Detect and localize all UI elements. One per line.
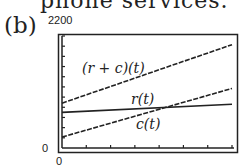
label-r: r(t) bbox=[131, 91, 154, 107]
label-c: c(t) bbox=[136, 116, 160, 132]
chart-plot: (r + c)(t) r(t) c(t) bbox=[0, 0, 242, 167]
label-sum: (r + c)(t) bbox=[82, 60, 145, 76]
